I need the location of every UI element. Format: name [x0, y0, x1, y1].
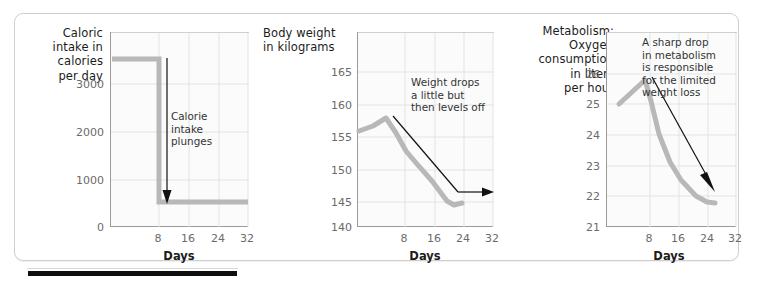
- chart-3-xtick-16: 16: [671, 232, 685, 245]
- chart-3-annotation-text: A sharp drop in metabolism is responsibl…: [642, 36, 734, 99]
- chart-2-plot-area: [357, 32, 493, 227]
- chart-2-series-body-weight: [359, 118, 462, 205]
- chart-2-xtick-24: 24: [456, 232, 470, 245]
- chart-2-xaxis-label: Days: [409, 249, 440, 263]
- chart-2-xtick-32: 32: [485, 232, 499, 245]
- chart-2-annotation-text: Weight drops a little but then levels of…: [411, 76, 495, 114]
- chart-1-xtick-16: 16: [181, 232, 195, 245]
- chart-2-ytick-140: 140: [310, 221, 352, 234]
- chart-1-xtick-24: 24: [211, 232, 225, 245]
- chart-panel-metabolism: Metabolism: Oxygen consumption in liters…: [502, 14, 736, 260]
- figure-panel: Caloric intake in calories per day 3000 …: [14, 13, 739, 261]
- chart-1-ytick-1000: 1000: [59, 174, 104, 187]
- chart-2-ytick-145: 145: [310, 196, 352, 209]
- chart-3-ytick-23: 23: [568, 160, 600, 173]
- chart-3-ytick-22: 22: [568, 190, 600, 203]
- chart-3-ytick-26: 26: [568, 68, 600, 81]
- chart-1-ytick-3000: 3000: [59, 78, 104, 91]
- chart-1-xaxis-label: Days: [163, 249, 194, 263]
- chart-1-axis-title: Caloric intake in calories per day: [25, 26, 103, 83]
- chart-1-ytick-0: 0: [59, 221, 104, 234]
- chart-3-xtick-24: 24: [700, 232, 714, 245]
- chart-2-xtick-16: 16: [427, 232, 441, 245]
- chart-2-ytick-165: 165: [310, 66, 352, 79]
- chart-3-xtick-32: 32: [728, 232, 742, 245]
- chart-3-ytick-25: 25: [568, 98, 600, 111]
- chart-2-ytick-155: 155: [310, 131, 352, 144]
- chart-2-ytick-160: 160: [310, 99, 352, 112]
- chart-1-annotation-text: Calorie intake plunges: [171, 110, 235, 148]
- chart-3-ytick-21: 21: [568, 221, 600, 234]
- chart-2-ytick-150: 150: [310, 164, 352, 177]
- chart-1-xtick-32: 32: [240, 232, 254, 245]
- chart-3-axis-title: Metabolism: Oxygen consumption in liters…: [502, 24, 614, 95]
- chart-2-gridlines-vertical: [405, 32, 493, 227]
- chart-3-ytick-24: 24: [568, 129, 600, 142]
- chart-panel-caloric-intake: Caloric intake in calories per day 3000 …: [19, 14, 255, 260]
- chart-panel-body-weight: Body weight in kilograms 165 160 155 150…: [255, 14, 502, 260]
- chart-1-xtick-8: 8: [155, 232, 162, 245]
- bottom-divider-rule: [27, 268, 238, 269]
- chart-2-xtick-8: 8: [401, 232, 408, 245]
- chart-3-xtick-8: 8: [646, 232, 653, 245]
- chart-1-ytick-2000: 2000: [59, 126, 104, 139]
- chart-2-svg: [358, 32, 494, 227]
- chart-3-xaxis-label: Days: [653, 249, 684, 263]
- bottom-black-bar: [28, 271, 237, 276]
